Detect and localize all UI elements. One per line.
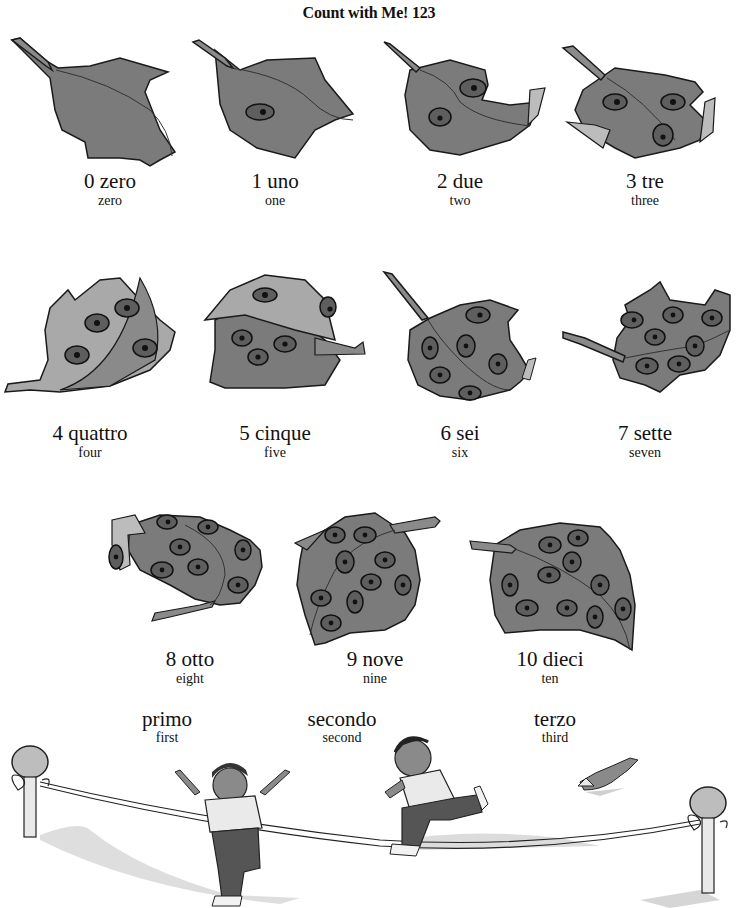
ladybug-icon: [347, 591, 363, 613]
ladybug-icon: [568, 530, 588, 546]
italian-number: 9 nove: [285, 648, 465, 670]
number-card-2: 2 due two: [370, 30, 555, 220]
ordinal-second: secondo second: [272, 708, 412, 746]
ladybug-icon: [489, 354, 507, 374]
ladybug-icon: [395, 575, 411, 595]
english-number: seven: [555, 445, 735, 461]
italian-number: 0 zero: [20, 170, 200, 192]
ladybug-icon: [361, 574, 381, 590]
italian-number: 1 uno: [185, 170, 365, 192]
ladybug-icon: [253, 288, 277, 302]
ladybug-icon: [325, 527, 345, 543]
ladybug-icon: [636, 358, 658, 374]
ordinal-italian: secondo: [272, 708, 412, 730]
leaf-icon: [100, 505, 285, 640]
ladybug-icon: [321, 615, 341, 631]
ladybug-icon: [686, 336, 704, 356]
ordinal-first: primo first: [97, 708, 237, 746]
ladybug-icon: [198, 520, 218, 534]
english-number: six: [370, 445, 550, 461]
ladybug-icon: [232, 330, 252, 346]
italian-number: 8 otto: [100, 648, 280, 670]
italian-number: 7 sette: [555, 422, 735, 444]
ladybug-icon: [429, 108, 451, 126]
ladybug-icon: [587, 606, 603, 628]
leaf-icon: [185, 30, 370, 190]
ordinal-english: third: [485, 730, 625, 746]
english-number: three: [555, 193, 735, 209]
ladybug-icon: [422, 337, 438, 359]
number-card-8: 8 otto eight: [100, 505, 285, 695]
ladybug-icon: [133, 339, 157, 357]
english-number: five: [185, 445, 365, 461]
number-card-9: 9 nove nine: [285, 505, 470, 695]
ladybug-icon: [170, 539, 190, 555]
leaf-icon: [185, 260, 370, 400]
leaf-icon: [0, 260, 185, 400]
ladybug-icon: [502, 574, 518, 596]
ladybug-icon: [460, 79, 486, 97]
number-card-0: 0 zero zero: [0, 30, 185, 220]
ladybug-icon: [157, 515, 177, 529]
ladybug-icon: [563, 552, 581, 572]
ladybug-icon: [661, 94, 685, 110]
number-card-7: 7 sette seven: [555, 260, 738, 475]
rabbit-icon: [578, 758, 638, 796]
english-number: two: [370, 193, 550, 209]
ladybug-icon: [320, 297, 336, 317]
ladybug-icon: [311, 590, 331, 606]
ladybug-icon: [375, 552, 395, 568]
number-card-1: 1 uno one: [185, 30, 370, 220]
ladybug-icon: [109, 545, 123, 569]
italian-number: 6 sei: [370, 422, 550, 444]
ladybug-icon: [466, 307, 490, 323]
italian-number: 5 cinque: [185, 422, 365, 444]
ladybug-icon: [557, 600, 577, 616]
page-title: Count with Me! 123: [0, 4, 738, 22]
leaf-icon: [285, 505, 470, 655]
ladybug-icon: [115, 299, 139, 317]
english-number: eight: [100, 671, 280, 687]
ladybug-icon: [188, 559, 208, 575]
leaf-icon: [370, 260, 555, 400]
ordinal-italian: primo: [97, 708, 237, 730]
ladybug-icon: [702, 310, 722, 326]
ladybug-icon: [603, 94, 627, 110]
ordinal-english: second: [272, 730, 412, 746]
ladybug-icon: [668, 356, 690, 372]
ladybug-icon: [621, 312, 643, 328]
ordinal-english: first: [97, 730, 237, 746]
ladybug-icon: [459, 386, 481, 400]
italian-number: 2 due: [370, 170, 550, 192]
finish-post-left-icon: [12, 746, 49, 837]
english-number: four: [0, 445, 180, 461]
ladybug-icon: [457, 335, 475, 357]
ladybug-icon: [246, 104, 274, 120]
finish-post-right-icon: [688, 787, 727, 893]
ladybug-icon: [65, 346, 89, 364]
ladybug-icon: [538, 567, 560, 583]
leaf-icon: [0, 30, 185, 190]
ordinal-italian: terzo: [485, 708, 625, 730]
ladybug-icon: [235, 540, 251, 560]
ladybug-icon: [516, 600, 538, 616]
ladybug-icon: [336, 551, 354, 573]
race-scene: primo first secondo second terzo third: [0, 700, 738, 908]
number-card-10: 10 dieci ten: [460, 505, 650, 695]
ordinal-third: terzo third: [485, 708, 625, 746]
number-card-4: 4 quattro four: [0, 260, 185, 475]
leaf-icon: [370, 30, 555, 190]
ladybug-icon: [645, 329, 665, 345]
italian-number: 10 dieci: [460, 648, 640, 670]
italian-number: 4 quattro: [0, 422, 180, 444]
ladybug-icon: [354, 527, 376, 543]
leaf-icon: [555, 260, 738, 400]
leaf-icon: [460, 505, 650, 655]
english-number: nine: [285, 671, 465, 687]
ladybug-icon: [274, 336, 296, 352]
number-card-6: 6 sei six: [370, 260, 555, 475]
number-card-3: 3 tre three: [555, 30, 738, 220]
ladybug-icon: [591, 575, 609, 595]
ladybug-icon: [663, 307, 683, 323]
english-number: zero: [20, 193, 200, 209]
